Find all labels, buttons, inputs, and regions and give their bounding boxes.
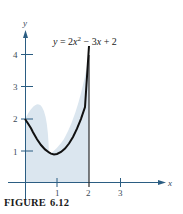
- equation-label: y = 2x2 − 3x + 2: [52, 35, 117, 47]
- y-tick-label-3: 3: [13, 82, 18, 92]
- y-tick-label-4: 4: [13, 50, 18, 60]
- x-tick-label-3: 3: [118, 188, 123, 198]
- y-axis-arrow-icon: [23, 30, 28, 38]
- y-tick-label-1: 1: [13, 147, 18, 157]
- caption-label: FIGURE: [4, 197, 46, 208]
- y-axis-label: y: [22, 18, 27, 28]
- caption-number: 6.12: [50, 197, 69, 208]
- x-tick-label-2: 2: [86, 188, 91, 198]
- figure-plot: 1 2 3 4 3 2 1 y x y = 2x2 − 3x + 2: [0, 0, 183, 214]
- figure-caption: FIGURE6.12: [4, 197, 69, 208]
- x-axis-arrow-icon: [158, 180, 166, 185]
- x-axis-label: x: [167, 178, 172, 188]
- y-tick-label-2: 2: [13, 114, 18, 124]
